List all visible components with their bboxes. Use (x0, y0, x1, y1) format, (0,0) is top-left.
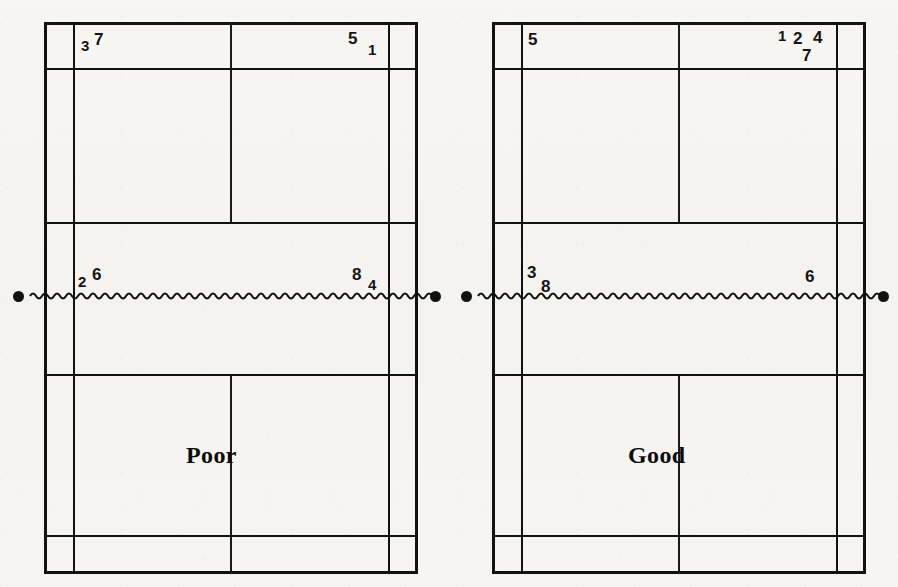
court-left-short-service-line-bottom (44, 374, 418, 376)
mark-right-6: 6 (805, 268, 814, 285)
mark-right-2: 2 (793, 30, 802, 47)
court-left-net-post-right-icon (430, 291, 441, 302)
mark-right-4: 4 (813, 29, 822, 46)
court-right-net-post-right-icon (878, 291, 889, 302)
mark-left-4: 4 (368, 277, 376, 292)
mark-left-6: 6 (92, 266, 101, 283)
court-right-label: Good (628, 443, 686, 467)
court-right-long-service-line-bottom (492, 535, 866, 537)
court-left-net-post-left-icon (13, 291, 24, 302)
mark-left-3: 3 (81, 38, 89, 53)
mark-right-3: 3 (527, 264, 536, 281)
court-right-net (478, 288, 880, 306)
mark-right-7: 7 (802, 47, 811, 64)
court-left-long-service-line-bottom (44, 535, 418, 537)
mark-left-5: 5 (348, 30, 357, 47)
court-left-long-service-line-top (44, 68, 418, 70)
mark-left-8: 8 (352, 266, 361, 283)
mark-left-2: 2 (78, 274, 86, 289)
mark-left-1: 1 (368, 42, 376, 57)
mark-left-7: 7 (94, 31, 103, 48)
court-left-label: Poor (186, 443, 237, 467)
court-right-short-service-line-bottom (492, 374, 866, 376)
court-right-centre-line-bottom (678, 374, 680, 574)
mark-right-5: 5 (528, 31, 537, 48)
court-left-centre-line-bottom (230, 374, 232, 574)
court-left-centre-line-top (230, 22, 232, 222)
court-right-short-service-line-top (492, 222, 866, 224)
court-right-long-service-line-top (492, 68, 866, 70)
mark-right-1: 1 (778, 28, 786, 43)
court-right-centre-line-top (678, 22, 680, 222)
badminton-court-figure: 3 7 5 1 2 6 8 4 Poor (0, 0, 898, 587)
mark-right-8: 8 (541, 278, 550, 295)
court-left-short-service-line-top (44, 222, 418, 224)
court-right-net-post-left-icon (461, 291, 472, 302)
